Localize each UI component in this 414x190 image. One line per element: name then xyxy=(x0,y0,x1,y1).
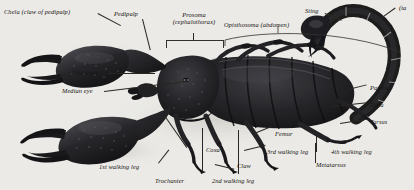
label-sting: Sting xyxy=(305,7,319,14)
leader-chelicera xyxy=(109,73,155,74)
leader-metatarsus xyxy=(315,143,316,163)
label-coxa: Coxa xyxy=(206,146,220,153)
bracket-opisthosoma xyxy=(224,30,414,54)
label-patella: Patella xyxy=(370,84,389,91)
label-leg2: 2nd walking leg xyxy=(212,177,254,184)
label-tail: (ta xyxy=(399,4,406,11)
label-chelicera: Chelicera xyxy=(72,69,98,76)
label-tibia: Tibia xyxy=(370,101,384,108)
label-metatarsus: Metatarsus xyxy=(316,161,346,168)
label-prosoma-line2: (cephalothorax) xyxy=(173,18,216,25)
label-leg3: 3rd walking leg xyxy=(267,148,308,155)
label-tarsus: Tarsus xyxy=(370,118,387,125)
label-opisthosoma: Opisthosoma (abdomen) xyxy=(224,21,289,28)
leader-trochanter xyxy=(202,128,203,172)
label-leg1: 1st walking leg xyxy=(99,163,139,170)
label-leg4: 4th walking leg xyxy=(331,148,372,155)
leader-leg4 xyxy=(316,133,317,152)
label-prosoma: Prosoma (cephalothorax) xyxy=(163,11,225,26)
leader-prosoma xyxy=(193,33,194,41)
label-femur: Femur xyxy=(275,130,293,137)
label-prosoma-line1: Prosoma xyxy=(182,11,206,18)
label-pedipalp: Pedipalp xyxy=(114,10,138,17)
scorpion-photograph xyxy=(0,0,414,190)
bracket-prosoma xyxy=(166,40,224,48)
scorpion-anatomy-figure: Chela (claw of pedipalp) Pedipalp Prosom… xyxy=(0,0,414,190)
label-claw: Claw xyxy=(237,162,251,169)
label-chela: Chela (claw of pedipalp) xyxy=(4,8,70,15)
label-trochanter: Trochanter xyxy=(155,177,184,184)
label-median-eye: Median eye xyxy=(62,87,93,94)
